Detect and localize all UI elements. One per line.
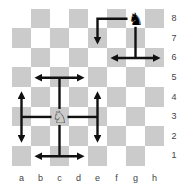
black-knight-icon[interactable]: ♞ — [128, 9, 143, 29]
file-label-f: f — [107, 173, 126, 183]
rank-label-6: 6 — [169, 52, 179, 62]
file-label-h: h — [145, 173, 164, 183]
rank-label-4: 4 — [169, 92, 179, 102]
rank-label-3: 3 — [169, 111, 179, 121]
file-label-c: c — [50, 173, 69, 183]
move-arrows-overlay: ♞♘ — [12, 9, 164, 166]
file-label-e: e — [88, 173, 107, 183]
white-knight-icon[interactable]: ♘ — [52, 107, 67, 127]
arrow-l-g8-e8-e7 — [98, 19, 128, 42]
file-label-a: a — [12, 173, 31, 183]
file-label-d: d — [69, 173, 88, 183]
file-label-g: g — [126, 173, 145, 183]
rank-label-5: 5 — [169, 72, 179, 82]
file-label-b: b — [31, 173, 50, 183]
rank-label-7: 7 — [169, 33, 179, 43]
rank-label-1: 1 — [169, 150, 179, 160]
rank-label-8: 8 — [169, 13, 179, 23]
rank-label-2: 2 — [169, 131, 179, 141]
